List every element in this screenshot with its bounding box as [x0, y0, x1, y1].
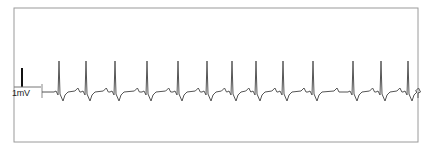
- ecg-strip: [0, 0, 435, 157]
- calibration-label: 1mV: [12, 88, 30, 98]
- strip-border: [14, 8, 418, 142]
- ecg-trace-line: [42, 61, 421, 101]
